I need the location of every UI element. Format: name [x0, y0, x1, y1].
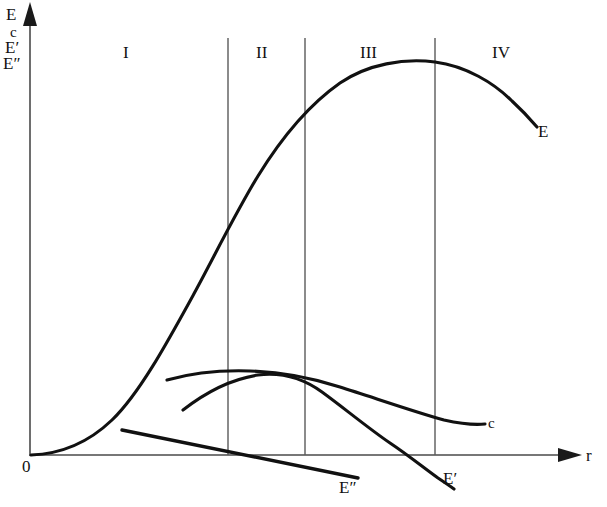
region-label-iii: III: [360, 44, 377, 61]
region-label-iv: IV: [492, 44, 510, 61]
x-axis-label-r: r: [586, 447, 592, 464]
curve-label-E-double-prime: E″: [339, 479, 356, 496]
curve-label-E-prime: E′: [443, 470, 457, 487]
curve-label-E: E: [538, 123, 548, 140]
region-label-ii: II: [256, 44, 267, 61]
origin-label: 0: [22, 458, 31, 475]
y-axis-label-E: E: [6, 6, 16, 23]
production-function-diagram: [0, 0, 607, 507]
curve-label-c: c: [488, 416, 495, 431]
y-axis-label-E-double-prime: E″: [3, 55, 20, 72]
chart-background: [0, 0, 607, 507]
region-label-i: I: [123, 44, 129, 61]
